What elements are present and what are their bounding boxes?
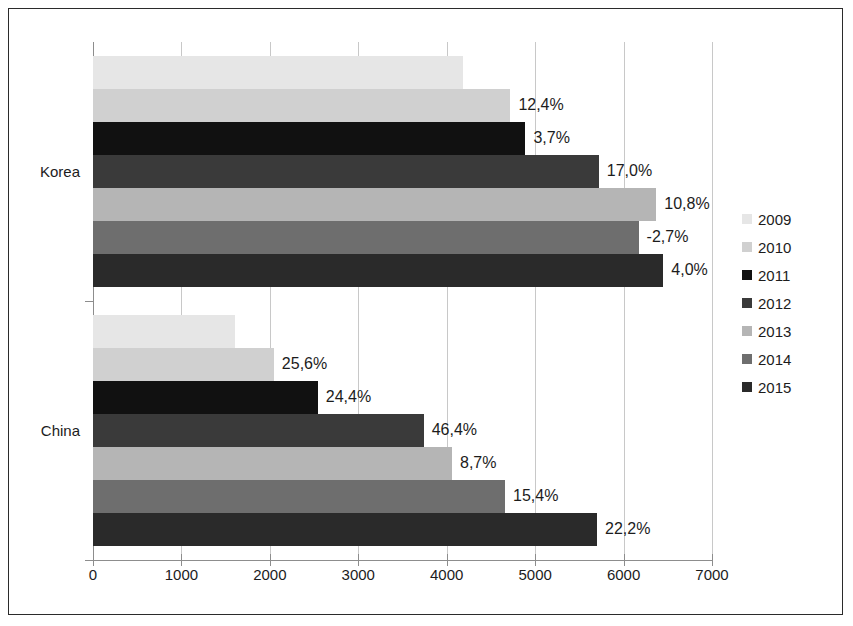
legend-label: 2015	[758, 380, 791, 395]
chart-screenshot: 01000200030004000500060007000 12,4%3,7%1…	[0, 0, 853, 626]
legend-item-2015[interactable]: 2015	[742, 373, 791, 401]
bar	[93, 414, 424, 447]
legend-item-2013[interactable]: 2013	[742, 317, 791, 345]
plot-area: 01000200030004000500060007000 12,4%3,7%1…	[0, 0, 853, 626]
legend-item-2014[interactable]: 2014	[742, 345, 791, 373]
bar	[93, 447, 452, 480]
bar	[93, 89, 510, 122]
y-axis-category-label: China	[2, 422, 80, 439]
bar-data-label: 3,7%	[533, 129, 569, 147]
legend-label: 2012	[758, 296, 791, 311]
gridline	[624, 42, 625, 560]
x-axis-tick	[181, 554, 182, 566]
bar-data-label: 15,4%	[513, 487, 558, 505]
x-axis-tick-label: 7000	[672, 566, 752, 583]
bar-data-label: 25,6%	[282, 355, 327, 373]
legend-label: 2011	[758, 268, 790, 283]
y-axis-category-tick	[85, 560, 94, 561]
bar-data-label: 12,4%	[518, 96, 563, 114]
bar-data-label: 46,4%	[432, 421, 477, 439]
x-axis-tick-label: 6000	[584, 566, 664, 583]
legend-item-2010[interactable]: 2010	[742, 233, 791, 261]
y-axis-category-tick	[85, 301, 94, 302]
x-axis-line	[93, 560, 712, 561]
legend-item-2009[interactable]: 2009	[742, 205, 791, 233]
legend-swatch-icon	[742, 326, 752, 336]
legend: 2009201020112012201320142015	[742, 205, 791, 401]
x-axis-tick	[535, 554, 536, 566]
x-axis-tick-label: 1000	[141, 566, 221, 583]
legend-label: 2009	[758, 212, 791, 227]
x-axis-tick	[712, 554, 713, 566]
x-axis-tick	[270, 554, 271, 566]
legend-label: 2013	[758, 324, 791, 339]
legend-swatch-icon	[742, 242, 752, 252]
legend-swatch-icon	[742, 298, 752, 308]
x-axis-tick-label: 0	[53, 566, 133, 583]
bar	[93, 348, 274, 381]
bar	[93, 155, 599, 188]
bar-data-label: -2,7%	[647, 228, 689, 246]
legend-item-2011[interactable]: 2011	[742, 261, 791, 289]
x-axis-tick	[447, 554, 448, 566]
x-axis-tick-label: 4000	[407, 566, 487, 583]
bar-data-label: 4,0%	[671, 261, 707, 279]
bar	[93, 56, 463, 89]
legend-item-2012[interactable]: 2012	[742, 289, 791, 317]
legend-label: 2010	[758, 240, 791, 255]
bar-data-label: 24,4%	[326, 388, 371, 406]
x-axis-tick-label: 5000	[495, 566, 575, 583]
legend-swatch-icon	[742, 270, 752, 280]
legend-swatch-icon	[742, 354, 752, 364]
bar-data-label: 8,7%	[460, 454, 496, 472]
bar	[93, 122, 525, 155]
bar	[93, 254, 663, 287]
bar-data-label: 22,2%	[605, 520, 650, 538]
legend-swatch-icon	[742, 382, 752, 392]
gridline	[535, 42, 536, 560]
x-axis-tick	[624, 554, 625, 566]
bar	[93, 480, 505, 513]
y-axis-category-label: Korea	[2, 163, 80, 180]
legend-label: 2014	[758, 352, 791, 367]
bar	[93, 188, 656, 221]
x-axis-tick	[358, 554, 359, 566]
bar	[93, 513, 597, 546]
bar-data-label: 10,8%	[664, 195, 709, 213]
legend-swatch-icon	[742, 214, 752, 224]
x-axis-tick-label: 2000	[230, 566, 310, 583]
gridline	[712, 42, 713, 560]
bar	[93, 221, 639, 254]
bar	[93, 315, 235, 348]
x-axis-tick-label: 3000	[318, 566, 398, 583]
bar-data-label: 17,0%	[607, 162, 652, 180]
bar	[93, 381, 318, 414]
